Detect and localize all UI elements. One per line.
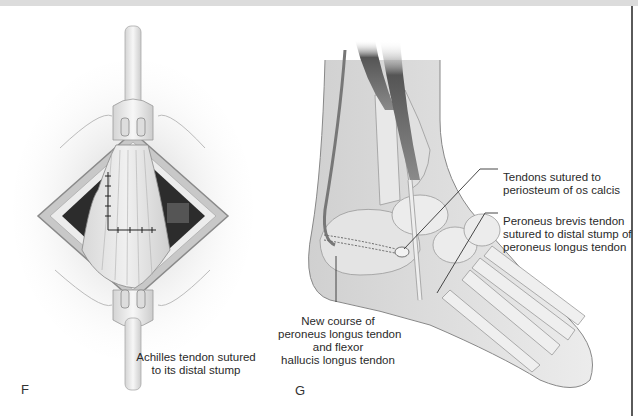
callout-line: New course of (278, 315, 398, 328)
callout-line: periosteum of os calcis (503, 184, 620, 197)
panel-letter-f: F (21, 382, 29, 397)
callout-line: Peroneus brevis tendon (503, 215, 631, 228)
callout-line: and flexor (278, 341, 398, 354)
callout-new-course: New course of peroneus longus tendon and… (278, 315, 398, 367)
panel-letter-g: G (295, 383, 305, 398)
panel-f-achilles-repair: Achilles tendon sutured to its distal st… (0, 6, 300, 416)
caption-achilles-tendon: Achilles tendon sutured to its distal st… (136, 351, 256, 377)
callout-line: Tendons sutured to (503, 171, 620, 184)
right-frame-rule (631, 6, 633, 416)
callout-line: peroneus longus tendon (503, 241, 631, 254)
callout-line: peroneus longus tendon (278, 328, 398, 341)
callout-line: sutured to distal stump of (503, 228, 631, 241)
panel-g-foot-tendon-transfer: Tendons sutured to periosteum of os calc… (300, 6, 631, 416)
caption-line: Achilles tendon sutured (136, 351, 256, 364)
callout-tendons-sutured: Tendons sutured to periosteum of os calc… (503, 171, 620, 197)
callout-peroneus-brevis: Peroneus brevis tendon sutured to distal… (503, 215, 631, 254)
caption-line: to its distal stump (136, 364, 256, 377)
callout-line: hallucis longus tendon (278, 354, 398, 367)
